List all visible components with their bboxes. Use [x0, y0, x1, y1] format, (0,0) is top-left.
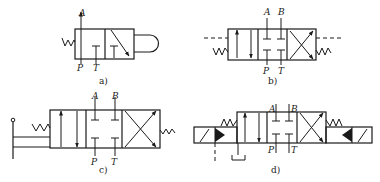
valve-body — [50, 110, 160, 148]
port-label-b: B — [290, 104, 298, 114]
spring-icon — [316, 48, 331, 55]
spring-icon — [326, 119, 342, 126]
port-label-b: B — [277, 7, 285, 17]
port-label-p: P — [262, 66, 270, 76]
caption-c: c) — [99, 165, 108, 175]
port-label-t: T — [291, 145, 298, 155]
caption-d: d) — [271, 165, 280, 175]
port-label-t: T — [278, 66, 285, 76]
caption-b: b) — [268, 76, 277, 86]
valve-symbols-figure: A P T a) A B P T b) — [0, 0, 380, 182]
port-label-a: A — [78, 8, 86, 18]
valve-body — [228, 29, 316, 60]
port-label-p: P — [76, 63, 84, 73]
pilot-triangle-icon — [342, 128, 352, 142]
port-label-a: A — [263, 7, 271, 17]
caption-a: a) — [99, 76, 108, 86]
spring-icon — [62, 38, 75, 46]
port-label-t: T — [111, 157, 118, 167]
pilot-triangle-icon — [215, 128, 225, 142]
valve-diagram-c: A B P T c) — [11, 91, 175, 175]
solenoid-coil-icon — [200, 129, 209, 142]
valve-diagram-b: A B P T b) — [204, 7, 344, 86]
spring-icon — [32, 124, 50, 131]
port-label-a: A — [268, 104, 276, 114]
solenoid-coil-icon — [358, 129, 367, 142]
port-label-a: A — [91, 91, 99, 101]
lever-knob-icon — [11, 118, 15, 122]
port-label-t: T — [93, 63, 100, 73]
port-label-p: P — [90, 157, 98, 167]
spring-icon — [213, 48, 228, 55]
port-label-p: P — [267, 145, 275, 155]
tank-icon — [232, 155, 245, 160]
spring-icon — [221, 119, 237, 126]
spring-icon — [160, 129, 175, 134]
roller-actuator-icon — [134, 35, 159, 52]
valve-diagram-d: A B P T d) — [194, 104, 372, 175]
port-label-b: B — [111, 91, 119, 101]
valve-diagram-a: A P T a) — [62, 8, 159, 86]
valve-body — [237, 112, 326, 143]
